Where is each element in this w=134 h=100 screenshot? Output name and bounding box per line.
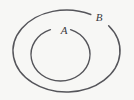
diagram-canvas: B A — [0, 0, 134, 100]
set-diagram-figure: B A — [0, 0, 134, 100]
set-label-b: B — [96, 11, 103, 23]
set-label-a: A — [60, 24, 68, 36]
inner-set-ellipse-a — [31, 30, 90, 81]
outer-set-ellipse-b — [13, 10, 120, 92]
